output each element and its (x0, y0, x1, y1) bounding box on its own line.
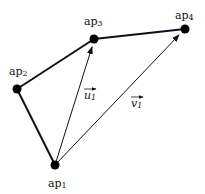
edge-ap2-ap3 (17, 39, 94, 89)
vector-labels: u1 v1 (84, 89, 143, 110)
points (13, 25, 190, 170)
label-v1: v1 (131, 97, 143, 110)
edge-ap1-ap2 (17, 89, 55, 165)
label-ap1: ap1 (48, 177, 67, 190)
point-labels: ap1 ap2 ap3 ap4 (9, 9, 194, 190)
point-ap2 (13, 85, 22, 94)
vector-v1-arrow (55, 35, 179, 165)
label-ap2: ap2 (9, 65, 28, 78)
edge-ap3-ap4 (94, 29, 185, 39)
vector-u1-arrow (55, 47, 92, 165)
point-ap3 (90, 35, 99, 44)
diagram-canvas: ap1 ap2 ap3 ap4 u1 v1 (0, 0, 205, 194)
label-ap4: ap4 (175, 9, 194, 22)
vector-arrows (55, 35, 179, 165)
svg-text:u1: u1 (84, 89, 96, 102)
svg-text:v1: v1 (131, 97, 142, 110)
label-u1: u1 (84, 89, 96, 102)
label-ap3: ap3 (84, 15, 103, 28)
point-ap4 (181, 25, 190, 34)
polygon-edges (17, 29, 185, 165)
point-ap1 (51, 161, 60, 170)
